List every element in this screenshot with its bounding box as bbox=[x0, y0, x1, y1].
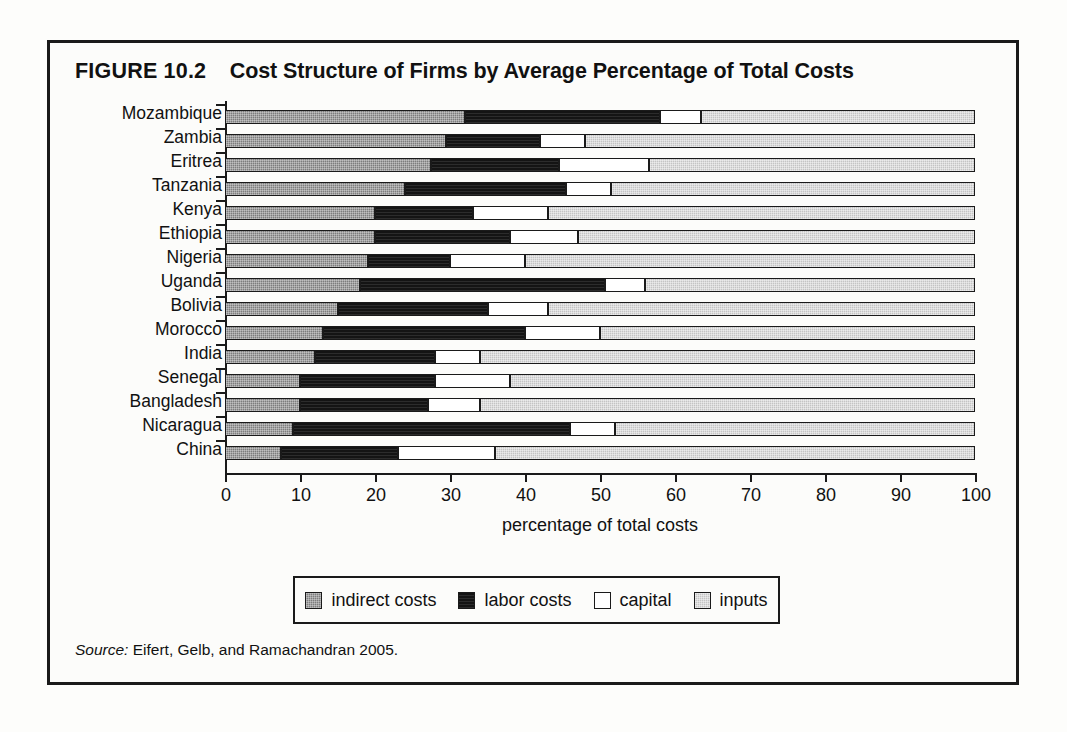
bar-segment-capital[interactable] bbox=[566, 182, 611, 196]
bar-row[interactable] bbox=[225, 182, 975, 196]
bar-segment-inputs[interactable] bbox=[480, 398, 975, 412]
x-axis-tick bbox=[900, 473, 902, 482]
bar-segment-inputs[interactable] bbox=[649, 158, 975, 172]
bar-segment-indirect[interactable] bbox=[225, 182, 405, 196]
category-label-nigeria: Nigeria bbox=[167, 249, 222, 267]
bar-segment-inputs[interactable] bbox=[600, 326, 975, 340]
bar-segment-inputs[interactable] bbox=[495, 446, 975, 460]
bar-segment-capital[interactable] bbox=[570, 422, 615, 436]
bar-segment-indirect[interactable] bbox=[225, 302, 338, 316]
category-label-senegal: Senegal bbox=[158, 369, 222, 387]
bar-row[interactable] bbox=[225, 422, 975, 436]
bar-segment-indirect[interactable] bbox=[225, 110, 465, 124]
bar-segment-inputs[interactable] bbox=[701, 110, 975, 124]
bar-segment-capital[interactable] bbox=[428, 398, 481, 412]
bar-segment-labor[interactable] bbox=[375, 230, 510, 244]
x-axis-tick bbox=[750, 473, 752, 482]
x-axis-tick-label: 60 bbox=[666, 485, 686, 506]
bar-segment-capital[interactable] bbox=[605, 278, 645, 292]
bar-segment-inputs[interactable] bbox=[611, 182, 975, 196]
bar-segment-capital[interactable] bbox=[559, 158, 649, 172]
bar-segment-labor[interactable] bbox=[405, 182, 566, 196]
bar-row[interactable] bbox=[225, 278, 975, 292]
bar-segment-inputs[interactable] bbox=[548, 302, 976, 316]
bar-segment-labor[interactable] bbox=[300, 374, 435, 388]
bar-segment-inputs[interactable] bbox=[585, 134, 975, 148]
bar-segment-labor[interactable] bbox=[300, 398, 428, 412]
chart-legend: indirect costslabor costscapitalinputs bbox=[293, 576, 780, 624]
x-axis-tick bbox=[600, 473, 602, 482]
bar-segment-capital[interactable] bbox=[488, 302, 548, 316]
bar-segment-capital[interactable] bbox=[435, 374, 510, 388]
legend-item-labor[interactable]: labor costs bbox=[458, 590, 571, 611]
bar-segment-indirect[interactable] bbox=[225, 398, 300, 412]
bar-segment-capital[interactable] bbox=[660, 110, 701, 124]
bar-segment-labor[interactable] bbox=[465, 110, 660, 124]
bar-segment-capital[interactable] bbox=[473, 206, 548, 220]
bar-segment-inputs[interactable] bbox=[615, 422, 975, 436]
bar-segment-labor[interactable] bbox=[375, 206, 473, 220]
bar-row[interactable] bbox=[225, 134, 975, 148]
legend-swatch-labor-icon bbox=[458, 592, 475, 609]
bar-segment-labor[interactable] bbox=[338, 302, 488, 316]
y-axis-tick bbox=[216, 368, 225, 370]
bar-segment-capital[interactable] bbox=[540, 134, 585, 148]
bar-segment-labor[interactable] bbox=[323, 326, 526, 340]
y-axis-tick bbox=[216, 272, 225, 274]
bar-row[interactable] bbox=[225, 326, 975, 340]
bar-row[interactable] bbox=[225, 206, 975, 220]
bar-row[interactable] bbox=[225, 254, 975, 268]
bar-row[interactable] bbox=[225, 398, 975, 412]
bar-segment-inputs[interactable] bbox=[525, 254, 975, 268]
x-axis-title: percentage of total costs bbox=[502, 515, 698, 536]
bar-row[interactable] bbox=[225, 230, 975, 244]
bar-segment-indirect[interactable] bbox=[225, 278, 360, 292]
bar-segment-capital[interactable] bbox=[435, 350, 480, 364]
y-axis-tick bbox=[216, 200, 225, 202]
bar-segment-indirect[interactable] bbox=[225, 446, 281, 460]
category-label-nicaragua: Nicaragua bbox=[142, 417, 222, 435]
bar-segment-indirect[interactable] bbox=[225, 206, 375, 220]
bar-segment-indirect[interactable] bbox=[225, 158, 431, 172]
bar-segment-labor[interactable] bbox=[446, 134, 540, 148]
x-axis-tick-label: 80 bbox=[816, 485, 836, 506]
legend-item-indirect[interactable]: indirect costs bbox=[305, 590, 436, 611]
bar-segment-inputs[interactable] bbox=[548, 206, 976, 220]
bar-row[interactable] bbox=[225, 374, 975, 388]
bar-segment-inputs[interactable] bbox=[578, 230, 976, 244]
bar-row[interactable] bbox=[225, 158, 975, 172]
bar-segment-inputs[interactable] bbox=[510, 374, 975, 388]
bar-segment-inputs[interactable] bbox=[645, 278, 975, 292]
x-axis-tick bbox=[300, 473, 302, 482]
bar-segment-indirect[interactable] bbox=[225, 230, 375, 244]
bar-segment-indirect[interactable] bbox=[225, 350, 315, 364]
bar-segment-indirect[interactable] bbox=[225, 422, 293, 436]
bar-segment-capital[interactable] bbox=[450, 254, 525, 268]
bar-segment-capital[interactable] bbox=[510, 230, 578, 244]
category-label-morocco: Morocco bbox=[155, 321, 222, 339]
bar-row[interactable] bbox=[225, 110, 975, 124]
figure-frame: FIGURE 10.2 Cost Structure of Firms by A… bbox=[47, 40, 1019, 685]
legend-item-capital[interactable]: capital bbox=[594, 590, 672, 611]
bar-segment-indirect[interactable] bbox=[225, 374, 300, 388]
bar-segment-labor[interactable] bbox=[315, 350, 435, 364]
bar-segment-capital[interactable] bbox=[398, 446, 496, 460]
y-axis-tick bbox=[216, 224, 225, 226]
bar-segment-indirect[interactable] bbox=[225, 134, 446, 148]
bar-segment-labor[interactable] bbox=[368, 254, 451, 268]
bar-segment-indirect[interactable] bbox=[225, 326, 323, 340]
bar-row[interactable] bbox=[225, 446, 975, 460]
plot-area: MozambiqueZambiaEritreaTanzaniaKenyaEthi… bbox=[50, 101, 1016, 531]
bar-segment-labor[interactable] bbox=[293, 422, 571, 436]
bar-segment-indirect[interactable] bbox=[225, 254, 368, 268]
bar-segment-labor[interactable] bbox=[360, 278, 605, 292]
category-label-china: China bbox=[176, 441, 222, 459]
bar-row[interactable] bbox=[225, 350, 975, 364]
legend-item-inputs[interactable]: inputs bbox=[694, 590, 768, 611]
bar-row[interactable] bbox=[225, 302, 975, 316]
bar-segment-labor[interactable] bbox=[431, 158, 559, 172]
bar-segment-labor[interactable] bbox=[281, 446, 397, 460]
bar-segment-inputs[interactable] bbox=[480, 350, 975, 364]
y-axis-tick bbox=[216, 392, 225, 394]
bar-segment-capital[interactable] bbox=[525, 326, 600, 340]
